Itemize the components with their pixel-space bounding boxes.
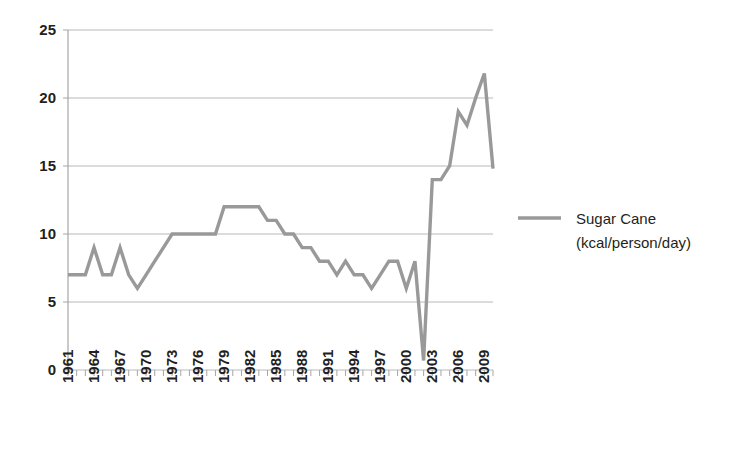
x-tick-label-1967: 1967 <box>111 350 128 383</box>
chart-container: 0510152025 19611964196719701973197619791… <box>0 0 737 449</box>
legend-label-line2: (kcal/person/day) <box>576 234 691 251</box>
x-tick-label-1964: 1964 <box>85 349 102 383</box>
y-tick-label-5: 5 <box>48 293 56 310</box>
x-tick-label-1976: 1976 <box>189 350 206 383</box>
x-axis: 1961196419671970197319761979198219851988… <box>59 349 493 383</box>
chart-legend: Sugar Cane (kcal/person/day) <box>518 210 691 251</box>
x-tick-label-1988: 1988 <box>293 350 310 383</box>
x-tick-label-1979: 1979 <box>215 350 232 383</box>
y-axis: 0510152025 <box>39 21 68 378</box>
series-line-0 <box>68 74 493 361</box>
x-tick-label-1994: 1994 <box>345 349 362 383</box>
legend-label-line1: Sugar Cane <box>576 210 656 227</box>
x-tick-label-1985: 1985 <box>267 350 284 383</box>
x-tick-label-1982: 1982 <box>241 350 258 383</box>
data-series <box>68 74 493 361</box>
y-tick-label-20: 20 <box>39 89 56 106</box>
x-tick-label-2000: 2000 <box>397 350 414 383</box>
x-tick-label-2009: 2009 <box>475 350 492 383</box>
gridlines <box>68 30 493 370</box>
y-tick-label-25: 25 <box>39 21 56 38</box>
x-tick-label-1961: 1961 <box>59 350 76 383</box>
y-tick-label-15: 15 <box>39 157 56 174</box>
x-tick-label-1970: 1970 <box>137 350 154 383</box>
x-tick-label-2006: 2006 <box>449 350 466 383</box>
y-tick-label-0: 0 <box>48 361 56 378</box>
x-tick-label-2003: 2003 <box>423 350 440 383</box>
y-tick-label-10: 10 <box>39 225 56 242</box>
x-tick-label-1991: 1991 <box>319 350 336 383</box>
line-chart: 0510152025 19611964196719701973197619791… <box>0 0 737 449</box>
x-tick-label-1973: 1973 <box>163 350 180 383</box>
x-tick-label-1997: 1997 <box>371 350 388 383</box>
